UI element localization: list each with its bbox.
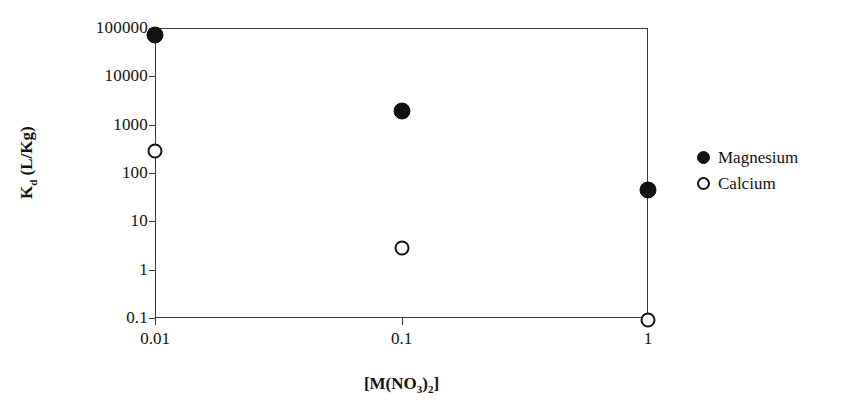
chart-legend: MagnesiumCalcium (697, 144, 842, 196)
legend-item-label: Calcium (718, 175, 776, 192)
open-circle-icon (697, 177, 710, 190)
y-axis-tick-label: 1 (139, 261, 148, 278)
y-axis-tick-label: 0.1 (126, 309, 148, 326)
data-point-calcium (641, 313, 656, 328)
x-axis-tick-label: 1 (644, 330, 653, 347)
data-point-magnesium (393, 103, 410, 120)
x-axis-title: [M(NO3)2] (155, 374, 648, 395)
x-axis-tick-mark (402, 318, 403, 325)
y-axis-tick-label: 1000 (113, 116, 148, 133)
y-axis-tick-labels: 0.1110100100010000100000 (0, 0, 148, 419)
y-axis-tick-label: 10000 (105, 67, 149, 84)
y-axis-tick-label: 100 (122, 164, 148, 181)
data-point-magnesium (147, 27, 164, 44)
scatter-chart-figure: Kd (L/Kg) 0.1110100100010000100000 0.010… (0, 0, 846, 419)
x-axis-tick-label: 0.1 (391, 330, 412, 347)
legend-item-label: Magnesium (718, 149, 798, 166)
y-axis-tick-label: 10 (131, 212, 148, 229)
data-point-calcium (394, 241, 409, 256)
x-axis-tick-label: 0.01 (140, 330, 170, 347)
filled-circle-icon (697, 151, 710, 164)
legend-item-magnesium[interactable]: Magnesium (697, 144, 842, 170)
data-point-calcium (148, 144, 163, 159)
plot-area (155, 28, 648, 318)
y-axis-tick-label: 100000 (96, 19, 148, 36)
legend-item-calcium[interactable]: Calcium (697, 170, 842, 196)
x-axis-tick-mark (155, 318, 156, 325)
data-point-magnesium (640, 181, 657, 198)
